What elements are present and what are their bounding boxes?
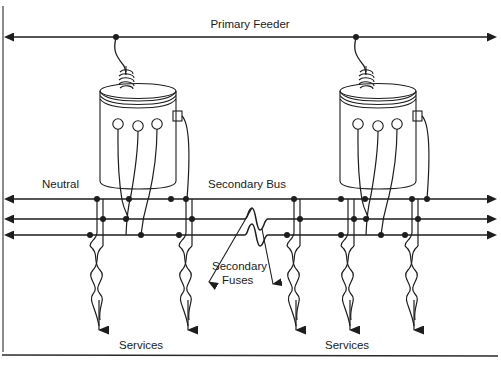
label-secondary-fuses-line1: Secondary: [212, 260, 267, 272]
distribution-diagram: Primary Feeder Neutral Secondary Bus Sec…: [0, 0, 501, 372]
secondary-bushing-left-3: [152, 119, 162, 129]
primary-bushing-coil-right: [359, 66, 374, 89]
label-secondary-bus: Secondary Bus: [208, 178, 286, 190]
label-primary-feeder: Primary Feeder: [210, 18, 289, 30]
fuse-leader-2: [262, 229, 273, 284]
side-lug-right: [413, 111, 422, 121]
side-lug-left: [173, 111, 182, 121]
secondary-lead-right-1: [358, 129, 369, 219]
bus-connection-dots: [87, 196, 430, 238]
secondary-bushing-left-2: [133, 121, 143, 131]
label-secondary-fuses-line2: Fuses: [222, 274, 254, 286]
primary-bushing-coil-left: [119, 66, 134, 89]
secondary-bushing-right-2: [373, 121, 383, 131]
secondary-bushing-right-3: [392, 119, 402, 129]
diagram-canvas: Primary Feeder Neutral Secondary Bus Sec…: [0, 0, 501, 372]
tank-side-lead-left: [182, 116, 189, 199]
tank-lid-right: [340, 84, 416, 99]
transformer-right: [340, 38, 429, 235]
secondary-lead-left-1: [118, 129, 129, 219]
label-neutral: Neutral: [42, 178, 79, 190]
tank-side-lead-right: [422, 116, 429, 199]
label-services-right: Services: [325, 339, 369, 351]
secondary-bushing-right-1: [353, 119, 363, 129]
transformer-left: [100, 38, 189, 235]
tank-lid-left: [100, 84, 176, 99]
secondary-bushing-left-1: [113, 119, 123, 129]
label-services-left: Services: [119, 339, 163, 351]
